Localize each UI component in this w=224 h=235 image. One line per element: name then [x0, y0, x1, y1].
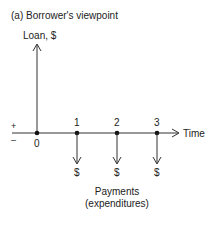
period-label-3: 3 — [154, 117, 160, 128]
origin-dot — [35, 131, 40, 136]
payments-caption-line1: Payments — [78, 186, 156, 198]
period-label-1: 1 — [74, 117, 80, 128]
figure-title: (a) Borrower's viewpoint — [11, 10, 118, 21]
payment-amount-1: $ — [74, 167, 80, 178]
period-label-2: 2 — [114, 117, 120, 128]
plus-sign: + — [11, 121, 16, 132]
payments-caption-line2: (expenditures) — [78, 198, 156, 210]
x-axis-label: Time — [183, 128, 205, 139]
origin-label: 0 — [34, 138, 40, 149]
minus-sign: – — [11, 135, 16, 146]
y-axis-label: Loan, $ — [23, 30, 56, 41]
payment-amount-3: $ — [154, 167, 160, 178]
payment-amount-2: $ — [114, 167, 120, 178]
